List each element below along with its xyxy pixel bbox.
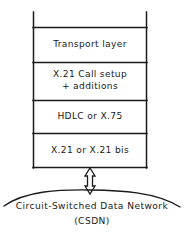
network-name-label: Circuit-Switched Data Network [0,201,184,211]
network-abbreviation-label: (CSDN) [0,216,184,226]
stack-layer-call-setup-line-1: X.21 Call setup [33,69,147,81]
stack-layer-data-link: HDLC or X.75 [33,111,147,123]
stack-layer-physical-line-1: X.21 or X.21 bis [33,145,147,157]
stack-layer-call-setup-line-2: + additions [33,81,147,93]
stack-layer-physical: X.21 or X.21 bis [33,145,147,157]
stack-layer-call-setup: X.21 Call setup + additions [33,69,147,92]
stack-layer-transport-line-1: Transport layer [33,39,147,51]
stack-layer-data-link-line-1: HDLC or X.75 [33,111,147,123]
protocol-stack-figure: Transport layer X.21 Call setup + additi… [0,0,184,236]
stack-layer-transport: Transport layer [33,39,147,51]
